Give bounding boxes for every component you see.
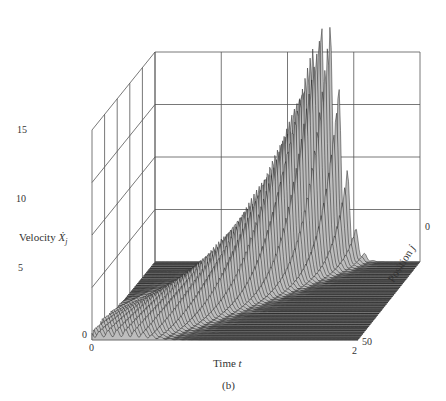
x-axis-label: Time t bbox=[213, 357, 242, 369]
figure-caption: (b) bbox=[222, 379, 235, 391]
velocity-surface bbox=[92, 27, 420, 340]
z-tick-0: 0 bbox=[82, 329, 87, 340]
x-tick-2: 2 bbox=[352, 345, 357, 356]
z-axis-label: Velocity Ẋj bbox=[19, 231, 67, 246]
y-tick-0: 0 bbox=[425, 221, 430, 232]
y-tick-50: 50 bbox=[362, 336, 372, 347]
z-tick-5: 5 bbox=[18, 262, 23, 273]
surface-plot bbox=[0, 0, 446, 401]
z-tick-15: 15 bbox=[17, 124, 27, 135]
x-tick-0: 0 bbox=[89, 342, 94, 353]
z-tick-10: 10 bbox=[16, 193, 26, 204]
